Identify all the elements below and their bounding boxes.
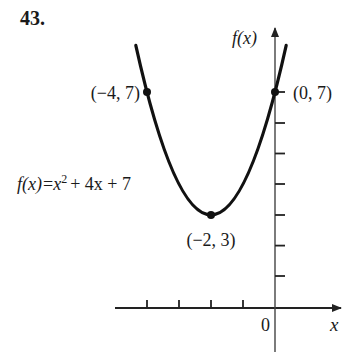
function-label-eq: = — [43, 174, 53, 194]
x-axis-label: x — [329, 314, 339, 335]
point-label-neg4-7: (−4, 7) — [91, 83, 140, 104]
vertex-label: (−2, 3) — [186, 230, 235, 251]
vertex-point — [207, 211, 215, 219]
graph-figure: 43. (−4, 7) (0, 7) (−2, 3) f(x) x 0 f(x)… — [0, 0, 353, 352]
point-neg4-7 — [143, 88, 151, 96]
origin-label: 0 — [261, 315, 270, 335]
y-axis-label: f(x) — [232, 28, 257, 49]
x-ticks — [147, 300, 243, 308]
function-label-rest: + 4x + 7 — [70, 174, 131, 194]
problem-number: 43. — [20, 7, 45, 29]
function-label: f(x)=x2+ 4x + 7 — [17, 172, 131, 195]
function-label-x: x — [52, 174, 61, 194]
y-ticks — [275, 92, 285, 276]
point-0-7 — [271, 88, 279, 96]
point-label-0-7: (0, 7) — [293, 83, 332, 104]
function-label-exp: 2 — [61, 172, 67, 186]
function-label-fx: f(x) — [17, 174, 42, 195]
parabola-curve — [136, 45, 286, 215]
